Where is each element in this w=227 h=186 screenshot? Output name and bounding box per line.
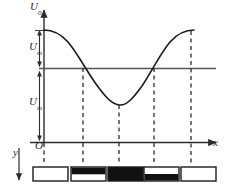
fringe-rectangles (33, 167, 216, 181)
fringe-rect-4 (144, 167, 179, 181)
fringe-rect-1 (33, 167, 68, 181)
x-axis-label: x (213, 137, 218, 148)
lower-amplitude-sub: m (37, 104, 42, 112)
y-axis-label-text: U (30, 0, 38, 12)
y-axis-label: U0 (30, 1, 41, 15)
origin-label: O (35, 140, 43, 151)
upper-amplitude-text: U (29, 40, 37, 52)
side-axis-label: y (13, 147, 18, 158)
fringe-rect-2 (71, 167, 106, 181)
dashed-guides (44, 31, 191, 164)
lower-amplitude-text: U (29, 95, 37, 107)
physics-figure: U0 Um Um O x y (0, 0, 227, 186)
upper-amplitude-label: Um (29, 41, 42, 55)
voltage-curve (44, 30, 194, 105)
lower-amplitude-label: Um (29, 96, 42, 110)
fringe-rect-5 (181, 167, 216, 181)
upper-amplitude-sub: m (37, 49, 42, 57)
y-axis-label-sub: 0 (38, 9, 42, 17)
fringe-rect-3 (108, 167, 143, 181)
